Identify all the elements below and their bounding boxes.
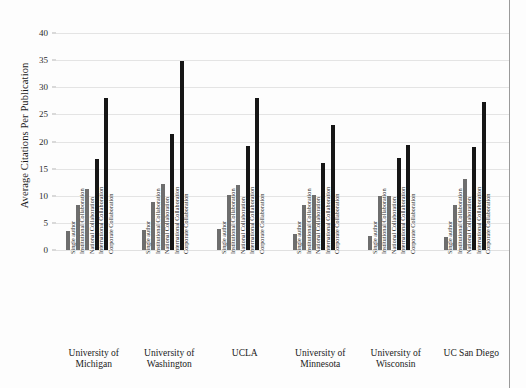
category-label: International Collaboration: [174, 187, 180, 254]
category-label: National Collaboration: [240, 197, 246, 254]
category-label: International Collaboration: [98, 187, 104, 254]
group-label-line1: UC San Diego: [444, 348, 499, 358]
category-label: Single author: [221, 221, 227, 254]
plot-area: [56, 33, 509, 250]
group-label-line2: Washington: [132, 359, 208, 370]
category-label: Institutional Collaboration: [230, 189, 236, 254]
gridline-30: [56, 87, 509, 88]
y-tick-label-10: 10: [26, 191, 48, 200]
category-label: National Collaboration: [466, 197, 472, 254]
category-label: Institutional Collaboration: [79, 189, 85, 254]
category-label: Corporate Collaboration: [410, 194, 416, 254]
gridline-35: [56, 60, 509, 61]
category-label: Corporate Collaboration: [485, 194, 491, 254]
group-label-line2: Michigan: [56, 359, 132, 370]
group-label: University ofMinnesota: [283, 348, 359, 370]
gridline-15: [56, 169, 509, 170]
gridline-20: [56, 142, 509, 143]
category-label: Corporate Collaboration: [334, 194, 340, 254]
bar-chart-figure: Average Citations Per Publication 051015…: [0, 0, 526, 388]
category-label: National Collaboration: [391, 197, 397, 254]
group-label: UC San Diego: [434, 348, 510, 359]
group-label: University ofWashington: [132, 348, 208, 370]
category-label: Single author: [70, 221, 76, 254]
gridline-40: [56, 33, 509, 34]
group-label-line1: University of: [69, 348, 119, 358]
category-label: Corporate Collaboration: [108, 194, 114, 254]
gridline-10: [56, 196, 509, 197]
category-label: International Collaboration: [476, 187, 482, 254]
category-label: International Collaboration: [249, 187, 255, 254]
group-label-line2: Minnesota: [283, 359, 359, 370]
category-label: National Collaboration: [164, 197, 170, 254]
group-label-line1: University of: [144, 348, 194, 358]
group-label: University ofWisconsin: [358, 348, 434, 370]
category-label: National Collaboration: [315, 197, 321, 254]
y-tick-label-30: 30: [26, 83, 48, 92]
category-label: Single author: [145, 221, 151, 254]
category-label: Institutional Collaboration: [457, 189, 463, 254]
gridline-0: [56, 250, 509, 251]
y-tick-label-35: 35: [26, 56, 48, 65]
y-tick-label-40: 40: [26, 29, 48, 38]
category-label: International Collaboration: [400, 187, 406, 254]
figure-right-border: [509, 0, 510, 388]
category-label: Institutional Collaboration: [306, 189, 312, 254]
category-label: International Collaboration: [325, 187, 331, 254]
y-tick-label-5: 5: [26, 218, 48, 227]
group-label: UCLA: [207, 348, 283, 359]
y-tick-label-20: 20: [26, 137, 48, 146]
category-label: Single author: [372, 221, 378, 254]
group-label-line1: UCLA: [232, 348, 258, 358]
group-label-line1: University of: [295, 348, 345, 358]
y-tick-label-0: 0: [26, 246, 48, 255]
gridline-5: [56, 223, 509, 224]
category-label: Corporate Collaboration: [183, 194, 189, 254]
category-label: Institutional Collaboration: [381, 189, 387, 254]
gridline-25: [56, 114, 509, 115]
group-label: University ofMichigan: [56, 348, 132, 370]
category-label: Single author: [296, 221, 302, 254]
category-label: Institutional Collaboration: [155, 189, 161, 254]
group-label-line1: University of: [371, 348, 421, 358]
y-axis-tick-labels: 0510152025303540: [28, 33, 52, 250]
category-label: Corporate Collaboration: [259, 194, 265, 254]
category-label: National Collaboration: [89, 197, 95, 254]
y-tick-label-15: 15: [26, 164, 48, 173]
y-tick-label-25: 25: [26, 110, 48, 119]
group-label-line2: Wisconsin: [358, 359, 434, 370]
category-label: Single author: [447, 221, 453, 254]
